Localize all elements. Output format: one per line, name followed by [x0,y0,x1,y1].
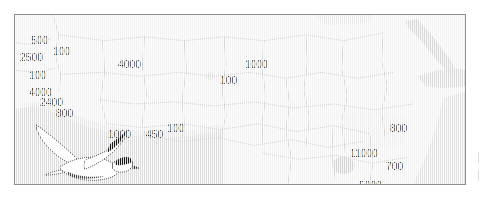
tern-illustration [15,15,465,184]
tern-lower-wingtip [108,130,128,153]
edge-artifact-mark [478,152,479,163]
tern-tail [45,170,65,175]
tern-in-flight-icon [35,124,141,181]
edge-artifact-marks [474,150,486,184]
edge-artifact-mark [478,170,479,181]
tern-beak [132,165,140,169]
map-panel: 500 2500 100 100 4000 2400 800 4000 1000… [14,14,466,185]
map-figure: 500 2500 100 100 4000 2400 800 4000 1000… [0,0,489,198]
